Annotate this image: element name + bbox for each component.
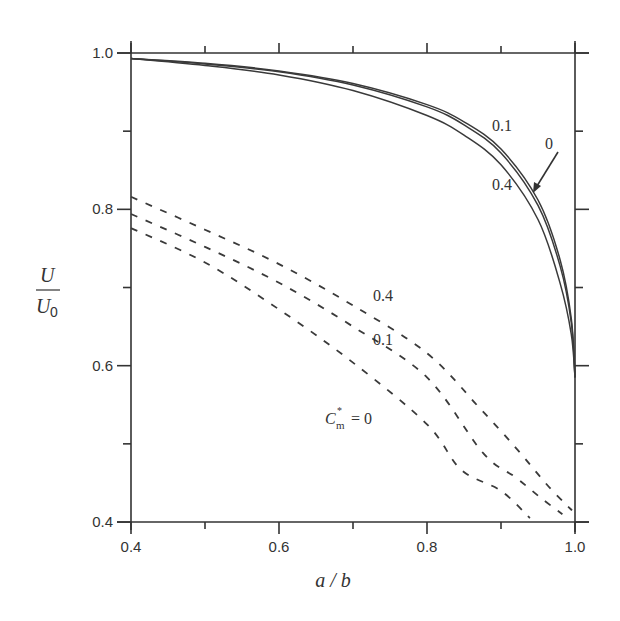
plot-frame (117, 41, 589, 532)
axis-ticks (117, 43, 589, 534)
label-solid-0-4: 0.4 (492, 176, 512, 193)
label-cm-0: C * m = 0 (325, 405, 372, 431)
arrow-icon (533, 152, 558, 193)
curve-dashed-c-m-0 (131, 228, 530, 518)
svg-text:C: C (325, 410, 336, 427)
curve-solid-c-m-0-1 (131, 59, 575, 378)
svg-text:*: * (337, 405, 342, 416)
x-tick-label: 0.8 (417, 538, 438, 555)
y-axis-title: U U 0 (36, 264, 60, 320)
curve-solid-c-m-0-4 (131, 59, 575, 378)
y-tick-label: 1.0 (92, 44, 113, 61)
curve-dashed-c-m-0-4 (131, 197, 572, 511)
x-axis-title: a / b (315, 569, 351, 591)
label-dashed-0-4: 0.4 (373, 287, 393, 304)
x-tick-label: 0.6 (269, 538, 290, 555)
chart: 0.40.60.81.00.40.60.81.0 0.1 0 0.4 0.4 0… (0, 0, 620, 621)
svg-text:U: U (40, 264, 56, 286)
curve-solid-c-m-0 (131, 59, 575, 378)
y-tick-label: 0.4 (92, 513, 113, 530)
y-tick-label: 0.8 (92, 200, 113, 217)
label-solid-0-1: 0.1 (492, 117, 512, 134)
svg-text:0: 0 (50, 304, 58, 320)
curve-dashed-c-m-0-1 (131, 214, 562, 514)
svg-text:= 0: = 0 (351, 410, 372, 427)
label-solid-0: 0 (545, 135, 553, 152)
label-dashed-0-1: 0.1 (373, 331, 393, 348)
y-tick-label: 0.6 (92, 357, 113, 374)
svg-text:m: m (336, 419, 345, 431)
x-tick-label: 1.0 (565, 538, 586, 555)
x-tick-label: 0.4 (121, 538, 142, 555)
